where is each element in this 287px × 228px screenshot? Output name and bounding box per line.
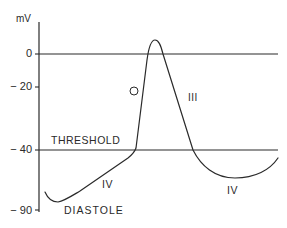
phase-4-left-label: IV: [102, 179, 113, 190]
phase-3-label: III: [188, 93, 198, 103]
diastole-label: DIASTOLE: [64, 205, 124, 216]
y-axis-unit: mV: [16, 14, 31, 24]
tick-label-minus-40: − 40: [0, 144, 32, 155]
phase-0-marker: [130, 87, 138, 95]
threshold-label: THRESHOLD: [51, 135, 120, 146]
action-potential-figure: mV 0 − 20 − 40 − 90 THRESHOLD III IV DIA…: [0, 0, 287, 228]
tick-label-0: 0: [0, 48, 32, 59]
tick-label-minus-20: − 20: [0, 81, 32, 92]
plot-canvas: [0, 0, 287, 228]
phase-4-right-label: IV: [227, 185, 238, 196]
action-potential-curve: [45, 40, 278, 202]
tick-label-minus-90: − 90: [0, 205, 32, 216]
